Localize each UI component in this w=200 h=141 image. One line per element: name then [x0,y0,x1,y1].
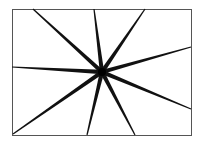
center-hub [98,68,106,76]
radial-burst-diagram [0,0,200,141]
